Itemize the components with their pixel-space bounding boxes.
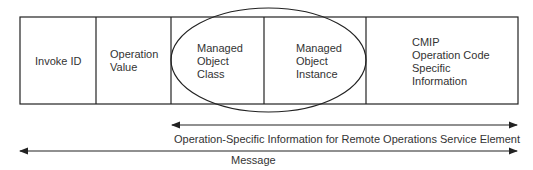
field-cmip-specific-info: CMIP Operation Code Specific Information xyxy=(412,36,490,88)
field-managed-object-instance: Managed Object Instance xyxy=(296,42,342,81)
field-operation-value: Operation Value xyxy=(110,48,158,74)
message-label: Message xyxy=(231,154,276,167)
rose-info-label: Operation-Specific Information for Remot… xyxy=(174,133,520,146)
field-managed-object-class: Managed Object Class xyxy=(197,42,243,81)
field-invoke-id: Invoke ID xyxy=(35,55,81,68)
